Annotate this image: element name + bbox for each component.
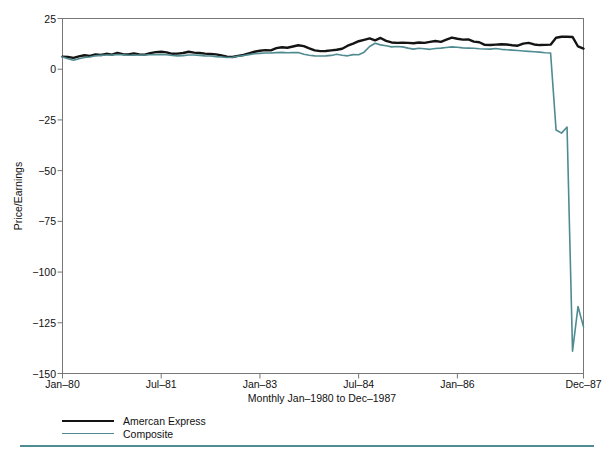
x-tick-label: Jan–83 xyxy=(243,379,277,390)
series-line-composite xyxy=(63,43,584,351)
x-tick-label: Jul–81 xyxy=(146,379,177,390)
legend-label-composite: Composite xyxy=(123,428,173,440)
y-tick-label: −100 xyxy=(20,267,56,278)
y-tick-label: −25 xyxy=(20,114,56,125)
y-tick-label: 0 xyxy=(20,64,56,75)
legend-item-composite: Composite xyxy=(62,427,362,440)
y-tick-label: −75 xyxy=(20,216,56,227)
y-tick-label: 25 xyxy=(20,13,56,24)
y-tick-label: −50 xyxy=(20,165,56,176)
x-tick-label: Jan–80 xyxy=(45,379,79,390)
x-axis-title: Monthly Jan–1980 to Dec–1987 xyxy=(248,392,396,404)
chart-figure: 250−25−50−75−100−125−150 Jan–80Jul–81Jan… xyxy=(0,0,616,463)
x-tick-label: Jul–84 xyxy=(343,379,374,390)
legend-label-american-express: Amercan Express xyxy=(123,415,206,427)
x-axis-ticks xyxy=(63,374,584,379)
legend-swatch-composite xyxy=(62,433,114,434)
y-axis-ticks xyxy=(58,19,63,374)
y-axis-title: Price/Earnings xyxy=(12,136,24,256)
x-tick-label: Dec–87 xyxy=(565,379,601,390)
x-tick-label: Jan–86 xyxy=(440,379,474,390)
legend-item-american-express: Amercan Express xyxy=(62,414,362,427)
chart-legend: Amercan Express Composite xyxy=(62,414,362,440)
legend-swatch-american-express xyxy=(62,420,114,422)
plot-frame xyxy=(63,19,584,374)
series-lines xyxy=(63,37,584,351)
y-tick-label: −125 xyxy=(20,317,56,328)
footer-rule xyxy=(20,445,594,447)
